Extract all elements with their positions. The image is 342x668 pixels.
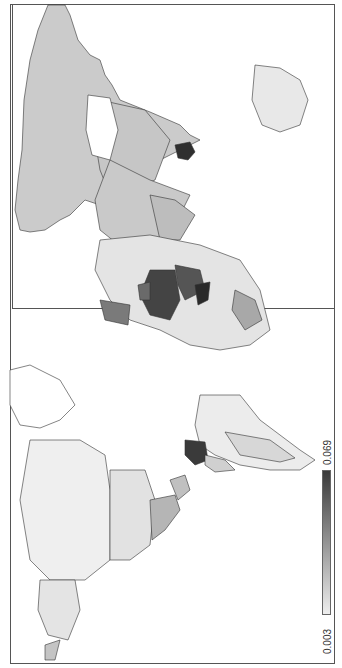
- region-southeast-asia: [175, 142, 195, 160]
- region-usa: [110, 470, 155, 560]
- region-canada: [20, 440, 110, 580]
- region-egypt: [138, 282, 150, 300]
- region-alaska: [38, 580, 80, 640]
- region-australia: [252, 65, 308, 132]
- world-map: [0, 0, 342, 668]
- region-peru-bolivia: [185, 440, 208, 465]
- colorbar-min-label: 0.003: [322, 629, 333, 654]
- region-mexico: [150, 495, 180, 540]
- region-greenland: [10, 365, 75, 428]
- region-kamchatka: [45, 640, 60, 660]
- colorbar-max-label: 0.069: [322, 440, 333, 465]
- colorbar: [322, 470, 331, 615]
